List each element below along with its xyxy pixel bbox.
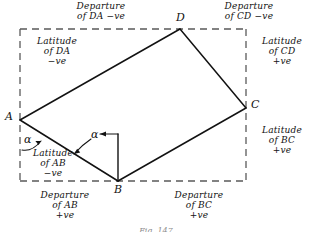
figure-container: A B C D α α Departure of DA −ve Departur…: [0, 0, 312, 232]
vertex-label-A: A: [5, 111, 13, 123]
annotation-latitude-AB: Latitude of AB −ve: [22, 148, 84, 178]
vertex-label-B: B: [114, 184, 122, 196]
annotation-departure-CD: Departure of CD −ve: [190, 1, 308, 21]
annotation-departure-DA: Departure of DA −ve: [42, 1, 160, 21]
vertex-label-C: C: [251, 99, 260, 111]
annotation-departure-AB: Departure of AB +ve: [18, 190, 112, 220]
annotation-latitude-BC: Latitude of BC +ve: [252, 125, 312, 155]
angle-label-alpha-at-A: α: [24, 134, 32, 146]
annotation-latitude-CD: Latitude of CD +ve: [252, 36, 312, 66]
traverse-leg-CD: [180, 29, 246, 108]
traverse-leg-BC: [118, 108, 246, 181]
vertex-label-D: D: [176, 12, 185, 24]
angle-label-alpha-at-B: α: [91, 129, 99, 141]
meridian-arrowhead-at-B: [100, 132, 106, 137]
annotation-latitude-DA: Latitude of DA −ve: [24, 36, 90, 66]
figure-caption: Fig. 147: [0, 226, 312, 232]
annotation-departure-BC: Departure of BC +ve: [152, 190, 246, 220]
angle-arc-arrowhead-at-A: [35, 141, 41, 145]
